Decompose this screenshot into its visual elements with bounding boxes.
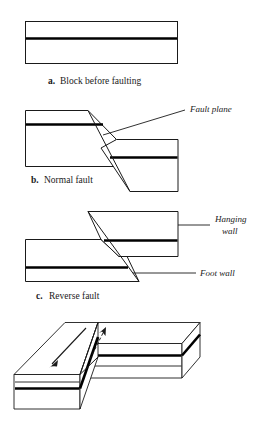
panel-a-letter: a. (48, 76, 55, 86)
panel-b-letter: b. (31, 175, 39, 185)
panel-d-strike-slip-block-diagram (14, 323, 200, 410)
figure-canvas: a. Block before faulting Fault plane b. … (0, 0, 271, 432)
left-block-front-face (14, 375, 80, 410)
hanging-wall-label-line2: wall (222, 226, 238, 236)
normal-fault-hangingwall-block (101, 140, 178, 192)
panel-a-block-before-faulting: a. Block before faulting (26, 22, 178, 87)
fault-plane-label: Fault plane (189, 104, 232, 114)
foot-wall-label: Foot wall (199, 268, 235, 278)
panel-b-normal-fault: Fault plane b. Normal fault (26, 104, 232, 192)
fault-plane-leader-line (103, 110, 185, 135)
panel-b-caption: Normal fault (44, 175, 93, 185)
hanging-wall-label-line1: Hanging (214, 214, 247, 224)
panel-c-caption: Reverse fault (49, 291, 100, 301)
panel-c-letter: c. (36, 291, 43, 301)
undeformed-block (26, 22, 178, 64)
fault-types-figure: a. Block before faulting Fault plane b. … (0, 0, 271, 432)
panel-a-caption: Block before faulting (60, 76, 142, 86)
panel-c-reverse-fault: Hanging wall Foot wall c. Reverse fault (26, 212, 248, 302)
